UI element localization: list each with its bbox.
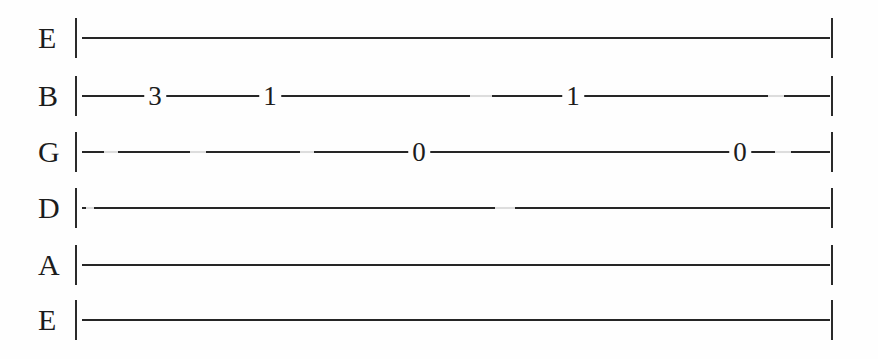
barline-left-string-6 [75,300,77,340]
tab-string-row-2: B 3 1 1 [0,68,878,124]
scan-fade-string-2-a [470,95,492,98]
barline-right-string-3 [831,132,833,172]
string-label-e-low: E [38,305,56,335]
fret-number-g-1: 0 [408,139,430,166]
barline-left-string-5 [75,245,77,285]
tab-string-row-1: E [0,10,878,66]
scan-fade-string-4-b [495,207,515,210]
barline-right-string-1 [831,18,833,58]
scan-fade-string-3-a [104,151,118,154]
scan-fade-string-3-c [300,151,314,154]
scan-fade-string-3-d [775,151,791,154]
string-label-g: G [38,137,60,167]
scan-fade-string-4-a [86,207,94,210]
tab-string-row-5: A [0,237,878,293]
fret-number-g-2: 0 [729,139,751,166]
barline-left-string-4 [75,188,77,228]
barline-right-string-4 [831,188,833,228]
fret-number-b-1: 3 [144,83,166,110]
barline-left-string-1 [75,18,77,58]
string-line-2 [82,95,830,97]
barline-left-string-2 [75,76,77,116]
string-label-d: D [38,193,60,223]
barline-right-string-6 [831,300,833,340]
string-label-b: B [38,81,58,111]
string-label-a: A [38,250,60,280]
string-label-e-high: E [38,23,56,53]
barline-right-string-2 [831,76,833,116]
string-line-5 [82,264,830,266]
barline-left-string-3 [75,132,77,172]
barline-right-string-5 [831,245,833,285]
tablature-sheet: E B 3 1 1 G 0 0 D A [0,0,878,359]
scan-fade-string-3-b [190,151,206,154]
tab-string-row-3: G 0 0 [0,124,878,180]
fret-number-b-3: 1 [562,83,584,110]
tab-string-row-4: D [0,180,878,236]
string-line-1 [82,37,830,39]
fret-number-b-2: 1 [259,83,281,110]
scan-fade-string-2-b [768,95,784,98]
tab-string-row-6: E [0,292,878,348]
string-line-4 [82,207,830,209]
string-line-6 [82,319,830,321]
